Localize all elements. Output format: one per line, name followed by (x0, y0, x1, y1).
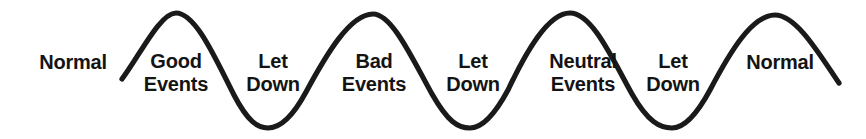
label-let-down-3: Let Down (646, 50, 700, 96)
label-let-down-2: Let Down (446, 50, 500, 96)
label-line: Down (446, 73, 500, 96)
label-line: Good (144, 50, 208, 73)
label-good-events: Good Events (144, 50, 208, 96)
label-line: Normal (39, 51, 107, 74)
label-line: Down (646, 73, 700, 96)
label-neutral-events: Neutral Events (549, 50, 617, 96)
label-line: Let (246, 50, 300, 73)
label-let-down-1: Let Down (246, 50, 300, 96)
label-line: Let (446, 50, 500, 73)
label-line: Down (246, 73, 300, 96)
label-line: Bad (342, 50, 406, 73)
label-line: Let (646, 50, 700, 73)
label-normal-start: Normal (39, 51, 107, 74)
label-bad-events: Bad Events (342, 50, 406, 96)
label-line: Events (342, 73, 406, 96)
label-line: Neutral (549, 50, 617, 73)
diagram-canvas: Normal Good Events Let Down Bad Events L… (0, 0, 866, 139)
label-normal-end: Normal (746, 51, 814, 74)
label-line: Normal (746, 51, 814, 74)
label-line: Events (549, 73, 617, 96)
wave-curve-svg (0, 0, 866, 139)
label-line: Events (144, 73, 208, 96)
